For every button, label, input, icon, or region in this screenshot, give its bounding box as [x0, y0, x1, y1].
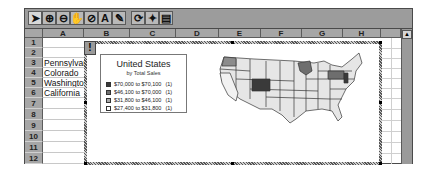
map-toolbar: ➤ ⊕ ⊖ ✋ ⊘ A ✎ ⟳ ✦ ▤	[25, 9, 412, 29]
row-header[interactable]: 10	[25, 131, 43, 142]
cell-a8[interactable]	[43, 109, 84, 120]
column-header-e[interactable]: E	[219, 29, 261, 38]
cell-a4[interactable]: Colorado	[43, 68, 84, 78]
spreadsheet-window: ➤ ⊕ ⊖ ✋ ⊘ A ✎ ⟳ ✦ ▤ A B C D E F G H 1 2 …	[24, 8, 413, 164]
cell-a7[interactable]	[43, 98, 84, 109]
text-label-icon[interactable]: A	[98, 11, 112, 25]
row-header[interactable]: 8	[25, 109, 43, 120]
resize-handle-top[interactable]	[231, 41, 234, 44]
row-header[interactable]: 6	[25, 88, 43, 98]
row-header[interactable]: 4	[25, 68, 43, 78]
resize-handle-bottom[interactable]	[231, 162, 234, 165]
select-all-corner[interactable]	[25, 29, 43, 38]
cell-a12[interactable]	[43, 153, 84, 164]
row-header[interactable]: 1	[25, 38, 43, 48]
legend-range: $27,400 to $31,800	[114, 105, 161, 111]
legend-range: $31,800 to $46,100	[114, 97, 161, 103]
legend-range: $70,000 to $70,100	[114, 81, 161, 87]
legend-swatch	[106, 106, 111, 111]
column-header-h[interactable]: H	[343, 29, 381, 38]
scroll-up-arrow-icon[interactable]: ▲	[402, 30, 412, 39]
zoom-in-icon[interactable]: ⊕	[42, 11, 56, 25]
resize-handle-bottom-left[interactable]	[84, 162, 87, 165]
legend-swatch	[106, 90, 111, 95]
cell-a9[interactable]	[43, 120, 84, 131]
cell-a1[interactable]	[43, 38, 84, 48]
zoom-out-icon[interactable]: ⊖	[56, 11, 70, 25]
legend-swatch	[106, 82, 111, 87]
column-header-a[interactable]: A	[43, 29, 84, 38]
redraw-map-icon[interactable]: ⟳	[131, 11, 145, 25]
row-header[interactable]: 7	[25, 98, 43, 109]
row-header[interactable]: 3	[25, 58, 43, 68]
column-header-d[interactable]: D	[176, 29, 219, 38]
column-header-b[interactable]: B	[84, 29, 130, 38]
vertical-scrollbar[interactable]: ▲	[401, 29, 412, 164]
center-map-icon[interactable]: ⊘	[84, 11, 98, 25]
show-control-panel-icon[interactable]: ▤	[159, 11, 173, 25]
state-pennsylvania	[328, 71, 344, 79]
column-header-g[interactable]: G	[302, 29, 343, 38]
resize-handle-top-right[interactable]	[379, 41, 382, 44]
legend-count: (1)	[165, 105, 172, 111]
row-header[interactable]: 11	[25, 142, 43, 153]
resize-handle-right[interactable]	[379, 101, 382, 104]
column-header-c[interactable]: C	[130, 29, 176, 38]
legend-count: (1)	[165, 97, 172, 103]
grabber-hand-icon[interactable]: ✋	[70, 11, 84, 25]
pin-marker-icon[interactable]: ✎	[112, 11, 126, 25]
legend-item: $27,400 to $31,800 (1)	[106, 104, 186, 112]
resize-handle-left[interactable]	[84, 101, 87, 104]
state-colorado	[252, 79, 270, 91]
us-map[interactable]	[214, 49, 374, 129]
resize-handle-bottom-right[interactable]	[379, 162, 382, 165]
legend-swatch	[106, 98, 111, 103]
legend-item: $46,100 to $70,000 (1)	[106, 88, 186, 96]
legend-title: United States	[101, 59, 186, 69]
row-header[interactable]: 2	[25, 48, 43, 58]
map-tool-button[interactable]: !	[84, 41, 96, 55]
map-legend[interactable]: United States by Total Sales $70,000 to …	[100, 54, 187, 113]
gridline	[391, 38, 392, 164]
united-states-shape	[220, 53, 362, 123]
cell-a2[interactable]	[43, 48, 84, 58]
column-header-i[interactable]	[381, 29, 401, 38]
state-washington	[222, 57, 236, 66]
cell-a5[interactable]: Washington	[43, 78, 84, 88]
legend-range: $46,100 to $70,000	[114, 89, 161, 95]
state-new-jersey	[344, 73, 348, 83]
row-header[interactable]: 9	[25, 120, 43, 131]
cell-a3[interactable]: Pennsylvania	[43, 58, 84, 68]
cell-a11[interactable]	[43, 142, 84, 153]
row-header[interactable]: 12	[25, 153, 43, 164]
column-header-f[interactable]: F	[261, 29, 302, 38]
cell-a10[interactable]	[43, 131, 84, 142]
map-refresh-icon[interactable]: ✦	[145, 11, 159, 25]
legend-item: $70,000 to $70,100 (1)	[106, 80, 186, 88]
cell-a6[interactable]: California	[43, 88, 84, 98]
legend-count: (1)	[165, 81, 172, 87]
row-header[interactable]: 5	[25, 78, 43, 88]
select-arrow-icon[interactable]: ➤	[28, 11, 42, 25]
embedded-map-object[interactable]: ! United States by Total Sales $70,000 t…	[84, 41, 382, 165]
legend-item: $31,800 to $46,100 (1)	[106, 96, 186, 104]
legend-count: (1)	[165, 89, 172, 95]
